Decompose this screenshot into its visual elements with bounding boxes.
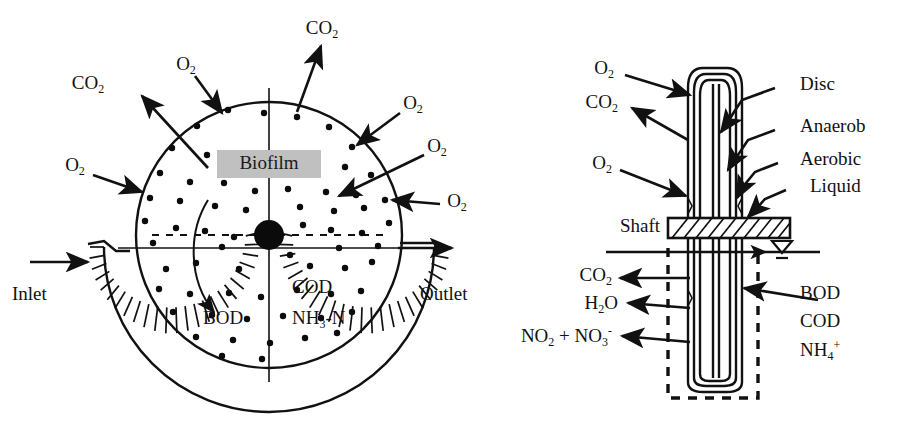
biofilm-label: Biofilm bbox=[239, 152, 298, 173]
h2o-product-arrow bbox=[628, 303, 690, 308]
outlet-label: Outlet bbox=[420, 283, 468, 304]
o2-top-right-panel-arrow bbox=[625, 75, 690, 95]
o2-right-arrow bbox=[339, 155, 424, 196]
o2-lower-right-label: O2 bbox=[447, 190, 467, 213]
o2-left-label: O2 bbox=[65, 154, 85, 177]
diagram-canvas: Biofilm CO2 CO2 O2 O2 bbox=[0, 0, 919, 439]
o2-mid-right-panel-arrow bbox=[620, 170, 686, 196]
co2-upper-left-label: CO2 bbox=[72, 72, 104, 95]
o2-left-arrow bbox=[93, 175, 142, 192]
shaft-label: Shaft bbox=[620, 215, 661, 236]
figure-root: Biofilm CO2 CO2 O2 O2 bbox=[0, 0, 919, 439]
h2o-product-label: H2O bbox=[585, 292, 618, 315]
shaft-bar bbox=[668, 218, 790, 238]
o2-top-left-label: O2 bbox=[176, 53, 196, 76]
nox-product-arrow bbox=[622, 336, 690, 342]
cod-label: COD bbox=[292, 276, 332, 297]
o2-top-left-arrow bbox=[195, 76, 222, 113]
anaerob-label: Anaerob bbox=[800, 115, 865, 136]
o2-mid-right-label: O2 bbox=[592, 152, 612, 175]
inlet-weir bbox=[88, 241, 130, 251]
o2-upper-right-arrow bbox=[357, 113, 400, 145]
aerobic-label: Aerobic bbox=[800, 148, 861, 169]
nh4-in-label: NH4+ bbox=[800, 338, 840, 363]
co2-upper-right-label: CO2 bbox=[586, 91, 618, 114]
bod-label: BOD bbox=[203, 307, 243, 328]
co2-upper-left-arrow bbox=[142, 96, 208, 168]
shaft-hub bbox=[254, 220, 284, 250]
co2-top-arrow bbox=[297, 46, 321, 112]
left-panel-group: Biofilm CO2 CO2 O2 O2 bbox=[12, 17, 468, 412]
o2-upper-right-label: O2 bbox=[403, 92, 423, 115]
bod-in-label: BOD bbox=[800, 282, 840, 303]
disc-label: Disc bbox=[800, 73, 835, 94]
cod-in-label: COD bbox=[800, 310, 840, 331]
co2-product-label: CO2 bbox=[580, 264, 612, 287]
water-level-symbol bbox=[772, 241, 792, 258]
nh3n-label: NH3-N bbox=[292, 307, 346, 330]
o2-top-right-label: O2 bbox=[594, 57, 614, 80]
liquid-leader bbox=[748, 190, 786, 217]
liquid-label: Liquid bbox=[810, 175, 861, 196]
inlet-label: Inlet bbox=[12, 283, 48, 304]
nox-product-label: NO2 + NO3- bbox=[521, 324, 612, 349]
co2-out-right-panel-arrow bbox=[632, 108, 688, 140]
o2-right-label: O2 bbox=[427, 135, 447, 158]
right-panel-group: O2 CO2 O2 Disc Anaerob Aerobic Liquid Sh… bbox=[521, 57, 866, 398]
bod-curved-arrow bbox=[194, 200, 214, 312]
co2-top-label: CO2 bbox=[306, 17, 338, 40]
